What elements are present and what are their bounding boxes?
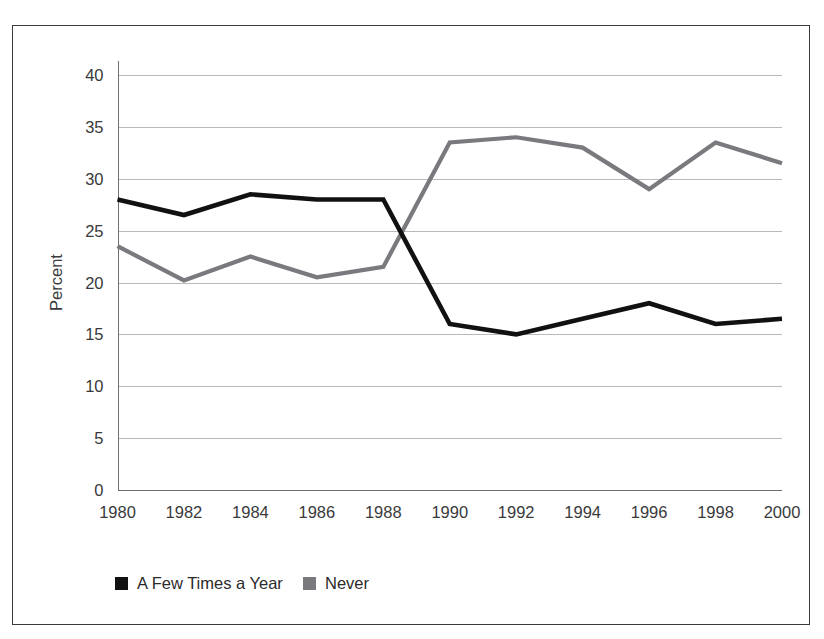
y-axis-title-text: Percent [47, 254, 65, 311]
series-line-a-few-times-a-year [118, 194, 783, 334]
y-tick-label: 25 [85, 222, 103, 240]
x-tick-label: 1998 [697, 503, 734, 521]
y-tick-label: 35 [85, 118, 103, 136]
x-tick-label: 1994 [564, 503, 601, 521]
legend-swatch [303, 577, 316, 590]
line-chart-svg: 0510152025303540 19801982198419861988199… [0, 0, 824, 639]
y-tick-label: 5 [94, 429, 103, 447]
x-tick-label: 1990 [431, 503, 468, 521]
y-tick-label: 40 [85, 66, 103, 84]
y-tick-label: 10 [85, 377, 103, 395]
y-axis-title: Percent [47, 254, 65, 311]
gridlines [118, 76, 783, 439]
x-tick-label: 1982 [166, 503, 203, 521]
x-tick-label: 1984 [232, 503, 269, 521]
y-tick-label: 30 [85, 170, 103, 188]
x-tick-label: 1988 [365, 503, 402, 521]
legend-swatch [115, 577, 128, 590]
y-axis-tick-labels: 0510152025303540 [85, 66, 103, 499]
legend-label: A Few Times a Year [137, 574, 283, 592]
data-series [118, 137, 783, 334]
series-line-never [118, 137, 783, 280]
chart-figure: 0510152025303540 19801982198419861988199… [0, 0, 824, 639]
y-tick-label: 0 [94, 481, 103, 499]
legend-label: Never [325, 574, 370, 592]
x-tick-label: 2000 [764, 503, 801, 521]
x-axis-tick-labels: 1980198219841986198819901992199419961998… [99, 503, 800, 521]
x-tick-label: 1980 [99, 503, 136, 521]
x-tick-label: 1992 [498, 503, 535, 521]
chart-legend: A Few Times a YearNever [115, 574, 370, 592]
x-tick-label: 1996 [631, 503, 668, 521]
y-tick-label: 15 [85, 325, 103, 343]
y-tick-label: 20 [85, 274, 103, 292]
chart-plot-area: 0510152025303540 19801982198419861988199… [0, 0, 824, 639]
axis-lines [119, 61, 783, 491]
x-tick-label: 1986 [298, 503, 335, 521]
